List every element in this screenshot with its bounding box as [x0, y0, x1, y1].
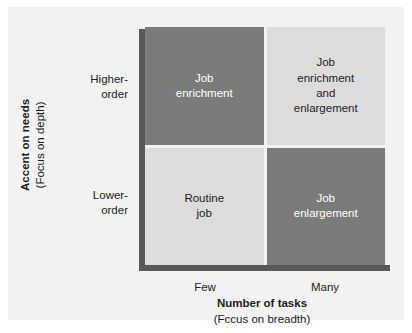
y-axis-tick-higher-order: Higher- order — [62, 72, 128, 102]
x-axis-title-sub: (Fccus on breadth) — [139, 312, 385, 328]
y-axis-title-sub: (Focus on depth) — [33, 55, 48, 235]
quadrant-job-enrichment[interactable]: Job enrichment — [145, 27, 264, 145]
y-axis-title: Accent on needs (Focus on depth) — [18, 55, 48, 235]
x-axis-tick-few: Few — [160, 281, 250, 293]
x-axis-title-main: Number of tasks — [139, 296, 385, 312]
x-axis-tick-many: Many — [280, 281, 370, 293]
x-axis-title: Number of tasks (Fccus on breadth) — [139, 296, 385, 327]
y-axis-title-main: Accent on needs — [18, 55, 33, 235]
job-design-matrix-figure: Accent on needs (Focus on depth) Higher-… — [0, 0, 412, 333]
matrix-plot-area: Job enrichment Job enrichment and enlarg… — [139, 27, 385, 271]
quadrant-routine-job[interactable]: Routine job — [145, 148, 264, 266]
quadrant-job-enrichment-and-enlargement[interactable]: Job enrichment and enlargement — [267, 27, 386, 145]
y-axis-tick-lower-order: Lower- order — [62, 188, 128, 218]
x-axis-line — [139, 265, 390, 271]
quadrant-grid: Job enrichment Job enrichment and enlarg… — [145, 27, 385, 265]
quadrant-job-enlargement[interactable]: Job enlargement — [267, 148, 386, 266]
